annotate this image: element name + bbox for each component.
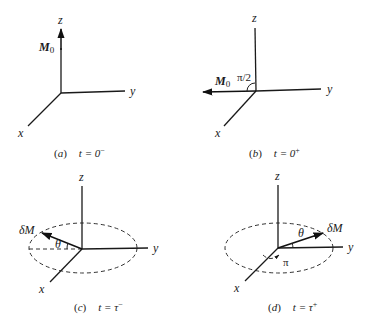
z-label: z (78, 170, 84, 184)
y-label: y (152, 241, 159, 255)
x-axis (50, 249, 82, 282)
angle-label: π/2 (237, 71, 251, 83)
delta-m-vector (42, 233, 82, 249)
panel-a: z y x M0 (a)t = 0− (17, 13, 136, 160)
right-angle-arc (247, 83, 255, 91)
y-axis (61, 91, 125, 93)
x-axis (224, 91, 256, 126)
z-label: z (251, 11, 257, 25)
y-label: y (347, 240, 354, 254)
figure-canvas: z y x M0 (a)t = 0− z y x M0 π/2 (b)t = 0… (0, 0, 372, 335)
y-axis (256, 89, 321, 91)
y-label: y (326, 82, 333, 96)
m0-label: M0 (38, 40, 55, 55)
z-label: z (57, 13, 63, 27)
x-label: x (214, 126, 221, 140)
theta-arc (67, 243, 68, 249)
m0-vector (203, 91, 256, 92)
delta-m-label: δM (19, 223, 36, 237)
panel-d: z y x δM θ π (d)t = τ+ (225, 169, 354, 314)
theta-label: θ (55, 237, 61, 251)
x-label: x (17, 126, 24, 140)
caption-b: (b)t = 0+ (249, 146, 300, 160)
x-axis (28, 93, 61, 126)
magnetization-diagram: z y x M0 (a)t = 0− z y x M0 π/2 (b)t = 0… (0, 0, 372, 335)
x-label: x (233, 281, 240, 295)
m0-label: M0 (214, 74, 231, 89)
x-axis (245, 248, 278, 281)
theta-label: θ (298, 226, 304, 240)
x-label: x (38, 282, 45, 296)
caption-c: (c)t = τ− (74, 300, 123, 314)
y-axis (82, 248, 148, 249)
z-label: z (274, 169, 280, 183)
caption-d: (d)t = τ+ (268, 300, 318, 314)
caption-a: (a)t = 0− (54, 146, 105, 160)
delta-m-label: δM (327, 221, 344, 235)
panel-c: z y x δM θ (c)t = τ− (19, 170, 159, 314)
pi-label: π (283, 256, 289, 268)
panel-b: z y x M0 π/2 (b)t = 0+ (203, 11, 333, 160)
y-label: y (129, 84, 136, 98)
z-axis (255, 28, 256, 91)
